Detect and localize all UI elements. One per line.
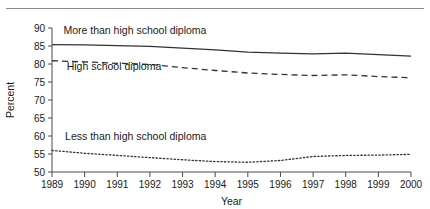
- x-tick-label: 1996: [269, 179, 292, 190]
- x-tick-label: 1999: [367, 179, 390, 190]
- series-line-0: [52, 45, 411, 57]
- x-tick-label: 1989: [41, 179, 64, 190]
- x-tick-label: 1991: [106, 179, 129, 190]
- y-tick-label: 85: [34, 41, 46, 52]
- y-tick-label: 75: [34, 77, 46, 88]
- y-tick-label: 90: [34, 23, 46, 34]
- figure-container: 5055606570758085901989199019911992199319…: [0, 0, 430, 209]
- x-tick-label: 1995: [237, 179, 260, 190]
- y-tick-label: 80: [34, 59, 46, 70]
- x-tick-label: 1990: [74, 179, 97, 190]
- x-tick-label: 1992: [139, 179, 162, 190]
- series-label-0: More than high school diploma: [63, 24, 206, 36]
- series-line-2: [52, 150, 411, 162]
- y-tick-label: 70: [34, 95, 46, 106]
- series-label-2: Less than high school diploma: [65, 130, 206, 142]
- y-tick-label: 55: [34, 149, 46, 160]
- x-tick-label: 1998: [335, 179, 358, 190]
- x-tick-label: 1997: [302, 179, 325, 190]
- y-tick-label: 65: [34, 113, 46, 124]
- y-tick-label: 60: [34, 131, 46, 142]
- y-axis-title: Percent: [4, 82, 16, 118]
- x-tick-label: 1993: [171, 179, 194, 190]
- y-tick-label: 50: [34, 167, 46, 178]
- line-chart: 5055606570758085901989199019911992199319…: [0, 0, 430, 209]
- x-tick-label: 2000: [400, 179, 423, 190]
- x-axis-title: Year: [221, 195, 243, 207]
- series-label-1: High school diploma: [67, 60, 162, 72]
- x-tick-label: 1994: [204, 179, 227, 190]
